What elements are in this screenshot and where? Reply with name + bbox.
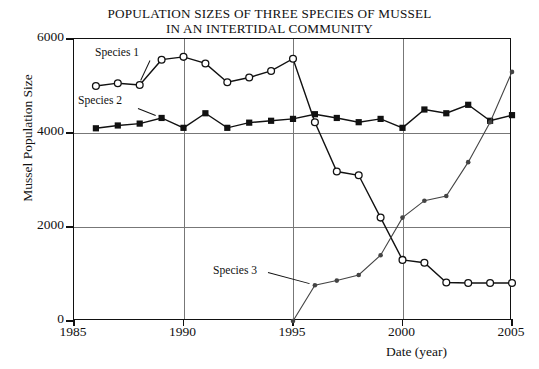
data-point	[487, 280, 494, 287]
data-point	[465, 280, 472, 287]
data-point	[377, 214, 384, 221]
data-point	[399, 257, 406, 264]
data-point	[115, 122, 121, 128]
data-point	[180, 125, 186, 131]
data-point	[465, 102, 471, 108]
data-point	[93, 83, 100, 90]
data-point	[246, 74, 253, 81]
data-point	[312, 111, 318, 117]
x-axis-label: Date (year)	[386, 344, 447, 360]
data-point	[291, 319, 296, 324]
y-axis-tick	[66, 132, 74, 134]
y-axis-tick	[66, 320, 74, 322]
chart-title: POPULATION SIZES OF THREE SPECIES OF MUS…	[0, 6, 539, 36]
series-1	[93, 53, 516, 286]
x-tick-label: 2000	[362, 324, 442, 340]
data-point	[399, 125, 405, 131]
data-point	[378, 253, 383, 258]
series-3	[291, 70, 515, 324]
data-point	[356, 273, 361, 278]
data-point	[312, 119, 319, 126]
data-point	[510, 70, 515, 75]
data-point	[93, 125, 99, 131]
data-point	[443, 279, 450, 286]
data-point	[290, 116, 296, 122]
chart-figure: POPULATION SIZES OF THREE SPECIES OF MUS…	[0, 0, 539, 369]
y-axis-tick	[66, 226, 74, 228]
y-tick-label: 4000	[0, 123, 64, 139]
data-point	[159, 115, 165, 121]
data-point	[246, 120, 252, 126]
data-point	[334, 115, 340, 121]
data-point	[509, 112, 515, 118]
data-point	[421, 259, 428, 266]
x-tick-label: 2005	[471, 324, 539, 340]
x-tick-label: 1995	[252, 324, 332, 340]
y-tick-label: 6000	[0, 29, 64, 45]
data-point	[422, 198, 427, 203]
data-point	[290, 55, 297, 62]
data-point	[444, 194, 449, 199]
data-point	[313, 283, 318, 288]
data-point	[488, 120, 493, 125]
data-point	[224, 125, 230, 131]
data-point	[378, 116, 384, 122]
data-point	[202, 110, 208, 116]
data-point	[466, 160, 471, 165]
data-point	[400, 215, 405, 220]
series-line	[293, 72, 512, 321]
y-axis-tick	[66, 38, 74, 40]
data-point	[268, 118, 274, 124]
data-point	[158, 56, 165, 63]
data-point	[180, 53, 187, 60]
data-point	[137, 121, 143, 127]
data-point	[355, 172, 362, 179]
chart-title-line-1: POPULATION SIZES OF THREE SPECIES OF MUS…	[107, 6, 431, 21]
data-point	[333, 168, 340, 175]
chart-title-line-2: IN AN INTERTIDAL COMMUNITY	[0, 21, 539, 36]
y-tick-label: 0	[0, 311, 64, 327]
data-point	[421, 106, 427, 112]
series-line	[96, 105, 512, 129]
series-label-2: Species 2	[78, 94, 122, 107]
data-point	[202, 60, 209, 67]
x-tick-label: 1990	[143, 324, 223, 340]
data-point	[335, 278, 340, 283]
series-label-3: Species 3	[213, 264, 257, 277]
series-2	[93, 102, 515, 132]
data-point	[443, 110, 449, 116]
series-line	[96, 57, 512, 283]
data-point	[136, 82, 143, 89]
data-point	[509, 280, 516, 287]
data-point	[356, 119, 362, 125]
y-tick-label: 2000	[0, 217, 64, 233]
data-point	[224, 79, 231, 86]
data-point	[268, 68, 275, 75]
series-label-1: Species 1	[95, 46, 139, 59]
data-point	[114, 80, 121, 87]
